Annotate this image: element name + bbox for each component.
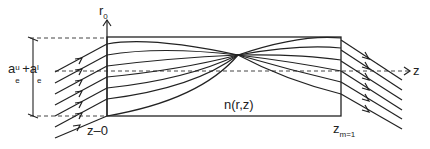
exit-label: zm=1 — [333, 122, 355, 139]
medium-label: n(r,z) — [224, 98, 254, 111]
aperture-sub-e1: e — [15, 77, 19, 85]
aperture-sub-e2: e — [37, 77, 41, 85]
aperture-a-upper: a — [8, 61, 15, 76]
outgoing-rays — [341, 40, 402, 129]
z-axis-label: z — [413, 64, 420, 77]
lens-ray-diagram — [0, 0, 430, 149]
outgoing-arrowheads — [362, 52, 369, 112]
r-subscript: 0 — [103, 12, 107, 21]
aperture-a-lower: a — [30, 61, 37, 76]
aperture-label: aue+ale — [8, 62, 44, 75]
aperture-sup-u: u — [15, 64, 19, 72]
aperture-plus: + — [22, 61, 30, 76]
r-axis-label: r0 — [99, 4, 108, 21]
exit-subscript: m=1 — [340, 130, 356, 139]
aperture-sup-l: l — [37, 64, 39, 72]
entrance-label: z–0 — [87, 124, 108, 137]
